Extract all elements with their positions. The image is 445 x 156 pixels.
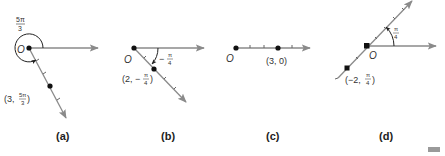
caption-a: (a) [56,130,70,142]
point-dot [151,66,156,71]
svg-text:π: π [394,26,398,32]
point-label: (3, 5π 3 ) [4,92,30,106]
svg-text:(−2,: (−2, [345,75,361,85]
svg-text:): ) [27,94,30,104]
point-label: (−2, π 4 ) [345,72,375,86]
polar-points-figure: O 5π 3 (3, 5π 3 ) (a) O − π [0,0,445,156]
pole-label: O [226,53,234,64]
pole-dot [233,45,238,50]
panel-b: O − π 4 (2, − π 4 ) (b) [122,45,204,142]
svg-text:4: 4 [144,80,148,86]
pole-label: O [369,50,377,61]
svg-text:3: 3 [21,100,25,106]
svg-text:π: π [366,72,370,78]
panel-a: O 5π 3 (3, 5π 3 ) (a) [4,16,98,142]
caption-b: (b) [161,130,175,142]
svg-text:π: π [168,52,172,58]
svg-text:): ) [150,74,153,84]
svg-text:−: − [159,54,164,64]
pole-label: O [17,44,25,55]
caption-c: (c) [266,130,280,142]
ray-back-extension [335,78,338,79]
point-label: (3, 0) [266,56,287,66]
angle-label: π 4 [393,26,399,40]
pole-dot [26,45,31,50]
caption-d: (d) [379,130,393,142]
angle-arc [152,48,158,64]
angle-arc [386,27,394,46]
svg-text:5π: 5π [19,92,26,98]
svg-text:4: 4 [168,60,172,66]
panel-c: O (3, 0) (c) [226,45,310,142]
point-dot [47,83,52,88]
svg-text:(2, −: (2, − [122,74,140,84]
point-dot [275,45,280,50]
svg-text:(3,: (3, [4,94,15,104]
svg-text:): ) [372,75,375,85]
svg-text:π: π [144,72,148,78]
ray-ticks [36,59,60,100]
pole-label: O [124,54,132,65]
point-dot [345,66,350,71]
svg-text:4: 4 [366,80,370,86]
angle-label: 5π 3 [16,16,25,32]
corner-badge [428,147,440,152]
svg-text:5π: 5π [16,16,25,23]
svg-text:4: 4 [394,34,398,40]
pole-dot [364,43,370,49]
angle-label: − π 4 [159,52,173,66]
ray-5pi-3 [29,48,66,118]
pole-dot [131,45,136,50]
point-label: (2, − π 4 ) [122,72,153,86]
panel-d: O π 4 (−2, π 4 ) (d) [335,1,436,142]
svg-text:3: 3 [18,25,22,32]
